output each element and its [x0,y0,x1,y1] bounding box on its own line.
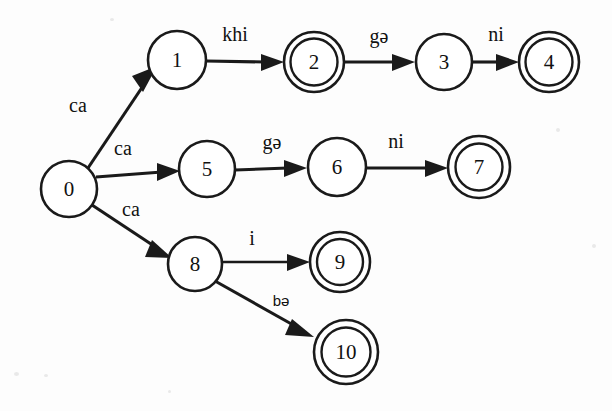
edge-line-0-5 [96,172,162,177]
arrowhead-2-3 [392,54,415,71]
state-node-4[interactable]: 4 [519,32,579,92]
state-4-label: 4 [544,50,555,74]
transition-label-0-8: ca [122,198,140,220]
state-1-label: 1 [172,48,183,72]
state-2-label: 2 [309,50,320,74]
transition-label-5-6: gə [263,131,282,154]
edge-3-to-4 [473,54,519,71]
scan-speck [14,372,19,376]
scan-speck [44,374,48,377]
state-6-label: 6 [332,155,343,179]
transition-label-3-4: ni [488,23,504,45]
edge-5-to-6 [235,160,307,177]
state-node-7[interactable]: 7 [448,136,510,198]
fsa-svg-root: 0 1 2 3 4 5 [0,0,612,411]
arrowhead-1-2 [261,54,284,71]
scan-speck [168,390,171,393]
scan-speck [592,244,596,248]
state-3-label: 3 [439,50,450,74]
edge-2-to-3 [345,54,415,71]
state-node-6[interactable]: 6 [308,138,366,196]
fsa-diagram-canvas: 0 1 2 3 4 5 [0,0,612,411]
state-8-label: 8 [190,252,201,276]
state-10-label: 10 [336,340,357,364]
arrowhead-5-6 [284,160,307,177]
state-0-label: 0 [64,177,75,201]
state-node-3[interactable]: 3 [416,34,472,90]
state-node-0[interactable]: 0 [41,161,97,217]
state-node-8[interactable]: 8 [168,237,222,291]
transition-label-8-9: i [249,227,255,249]
state-node-1[interactable]: 1 [148,31,206,89]
edge-line-5-6 [235,168,288,170]
arrowhead-8-9 [287,254,310,271]
state-9-label: 9 [335,250,346,274]
transition-label-1-2: khi [222,23,248,45]
edge-8-to-9 [222,254,310,271]
transition-label-0-1: ca [69,94,87,116]
scan-speck [556,128,560,132]
arrowhead-6-7 [425,160,448,177]
edge-line-1-2 [206,61,265,62]
scan-speck [110,18,114,21]
transition-label-8-10: bə [273,292,290,309]
edge-6-to-7 [366,160,448,177]
edge-1-to-2 [206,54,284,71]
arrowhead-3-4 [496,54,519,71]
state-node-9[interactable]: 9 [310,232,370,292]
state-5-label: 5 [202,157,213,181]
state-node-10[interactable]: 10 [314,320,378,384]
arrowhead-0-5 [157,163,180,181]
transition-label-6-7: ni [388,130,404,152]
transition-label-2-3: gə [370,25,389,48]
state-7-label: 7 [474,155,485,179]
state-node-5[interactable]: 5 [179,141,235,197]
state-node-2[interactable]: 2 [284,32,344,92]
transition-label-0-5: ca [114,137,132,159]
edge-8-to-10 [215,281,314,337]
edge-0-to-5 [96,163,180,181]
